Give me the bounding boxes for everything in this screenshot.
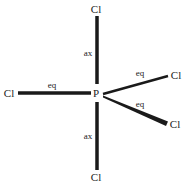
bond-label-eq-left: eq <box>48 80 57 90</box>
atom-cl-left: Cl <box>4 87 14 99</box>
molecule-svg: P Cl Cl Cl Cl Cl ax eq eq eq ax <box>0 0 185 186</box>
bond-label-eq-lower-right: eq <box>136 99 145 109</box>
bond-label-eq-upper-right: eq <box>136 68 145 78</box>
atom-cl-upper-right: Cl <box>171 69 181 81</box>
atom-cl-bottom: Cl <box>91 171 101 183</box>
atom-cl-lower-right: Cl <box>170 118 180 130</box>
pcl5-diagram: P Cl Cl Cl Cl Cl ax eq eq eq ax <box>0 0 185 186</box>
bond-label-ax-bottom: ax <box>84 131 93 141</box>
atom-cl-top: Cl <box>91 3 101 15</box>
bond-label-ax-top: ax <box>84 48 93 58</box>
atom-p: P <box>93 87 99 99</box>
bond-equatorial-upper-right <box>103 76 168 94</box>
